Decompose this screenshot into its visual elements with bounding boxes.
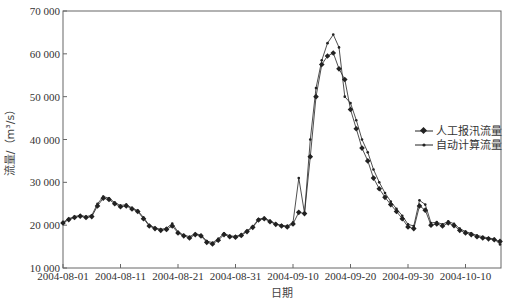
dot-marker-icon	[338, 46, 341, 49]
dot-marker-icon	[458, 227, 461, 230]
diamond-marker-icon	[296, 209, 302, 215]
dot-marker-icon	[309, 138, 312, 141]
dot-marker-icon	[171, 222, 174, 225]
dot-marker-icon	[269, 220, 272, 223]
dot-marker-icon	[453, 223, 456, 226]
dot-marker-icon	[430, 222, 433, 225]
dot-marker-icon	[125, 203, 128, 206]
x-tick-label: 2004-08-01	[37, 270, 88, 282]
x-axis-title: 日期	[271, 287, 293, 300]
dot-marker-icon	[412, 225, 415, 228]
dot-marker-icon	[108, 197, 111, 200]
dot-marker-icon	[487, 237, 490, 240]
legend-label: 自动计算流量	[436, 138, 502, 152]
series-manual-line	[63, 53, 500, 244]
dot-marker-icon	[384, 192, 387, 195]
diamond-marker-icon	[420, 127, 427, 134]
dot-marker-icon	[136, 209, 139, 212]
x-tick-label: 2004-09-10	[267, 270, 319, 282]
diamond-marker-icon	[313, 94, 319, 100]
dot-marker-icon	[200, 234, 203, 237]
dot-marker-icon	[286, 225, 289, 228]
x-tick-label: 2004-08-11	[95, 270, 146, 282]
dot-marker-icon	[297, 177, 300, 180]
dot-marker-icon	[424, 203, 427, 206]
y-tick-label: 70 000	[30, 5, 61, 17]
dot-marker-icon	[211, 241, 214, 244]
dot-marker-icon	[85, 215, 88, 218]
dot-marker-icon	[441, 223, 444, 226]
dot-marker-icon	[343, 95, 346, 98]
dot-marker-icon	[165, 227, 168, 230]
dot-marker-icon	[422, 143, 425, 146]
y-tick-label: 50 000	[30, 91, 61, 103]
dot-marker-icon	[326, 42, 329, 45]
diamond-marker-icon	[359, 145, 365, 151]
x-tick-label: 2004-08-31	[210, 270, 261, 282]
y-tick-label: 40 000	[30, 134, 61, 146]
dot-marker-icon	[355, 119, 358, 122]
dot-marker-icon	[349, 102, 352, 105]
dot-marker-icon	[332, 33, 335, 36]
dot-marker-icon	[407, 223, 410, 226]
dot-marker-icon	[280, 224, 283, 227]
dot-marker-icon	[240, 233, 243, 236]
dot-marker-icon	[499, 243, 502, 246]
dot-marker-icon	[447, 220, 450, 223]
dot-marker-icon	[73, 215, 76, 218]
series-auto-line	[63, 35, 500, 245]
dot-marker-icon	[142, 216, 145, 219]
diamond-marker-icon	[330, 50, 336, 56]
diamond-marker-icon	[319, 62, 325, 68]
dot-marker-icon	[62, 221, 65, 224]
dot-marker-icon	[154, 226, 157, 229]
diamond-marker-icon	[325, 53, 331, 59]
diamond-marker-icon	[376, 186, 382, 192]
legend-item-manual: 人工报汛流量	[415, 124, 502, 138]
dot-marker-icon	[246, 229, 249, 232]
dot-marker-icon	[263, 217, 266, 220]
dot-marker-icon	[366, 151, 369, 154]
dot-marker-icon	[435, 221, 438, 224]
dot-marker-icon	[177, 231, 180, 234]
dot-marker-icon	[194, 232, 197, 235]
legend: 人工报汛流量 自动计算流量	[415, 124, 502, 152]
dot-marker-icon	[464, 230, 467, 233]
dot-marker-icon	[303, 212, 306, 215]
dot-marker-icon	[182, 234, 185, 237]
dot-marker-icon	[234, 235, 237, 238]
dot-marker-icon	[119, 204, 122, 207]
x-tick-label: 2004-08-21	[152, 270, 203, 282]
x-axis: 2004-08-012004-08-112004-08-212004-08-31…	[37, 264, 491, 282]
dot-marker-icon	[102, 195, 105, 198]
dot-marker-icon	[90, 214, 93, 217]
line-chart: 10 00020 00030 00040 00050 00060 00070 0…	[0, 0, 511, 303]
y-tick-label: 30 000	[30, 176, 61, 188]
dot-marker-icon	[476, 234, 479, 237]
dot-marker-icon	[96, 202, 99, 205]
legend-item-auto: 自动计算流量	[415, 138, 502, 152]
x-tick-label: 2004-09-20	[325, 270, 377, 282]
dot-marker-icon	[205, 240, 208, 243]
dot-marker-icon	[401, 214, 404, 217]
dot-marker-icon	[188, 235, 191, 238]
dot-marker-icon	[217, 238, 220, 241]
dot-marker-icon	[493, 238, 496, 241]
dot-marker-icon	[113, 201, 116, 204]
dot-marker-icon	[79, 214, 82, 217]
dot-marker-icon	[361, 138, 364, 141]
dot-marker-icon	[67, 217, 70, 220]
dot-marker-icon	[257, 218, 260, 221]
diamond-marker-icon	[307, 154, 313, 160]
dot-marker-icon	[148, 224, 151, 227]
y-tick-label: 60 000	[30, 48, 61, 60]
dot-marker-icon	[481, 235, 484, 238]
y-tick-label: 20 000	[30, 219, 61, 231]
y-axis: 10 00020 00030 00040 00050 00060 00070 0…	[30, 5, 67, 274]
dot-marker-icon	[292, 221, 295, 224]
x-tick-label: 2004-09-30	[382, 270, 434, 282]
x-tick-label: 2004-10-10	[440, 270, 492, 282]
y-axis-title: 流量/（m³/s）	[3, 104, 17, 176]
dot-marker-icon	[372, 168, 375, 171]
diamond-marker-icon	[371, 175, 377, 181]
